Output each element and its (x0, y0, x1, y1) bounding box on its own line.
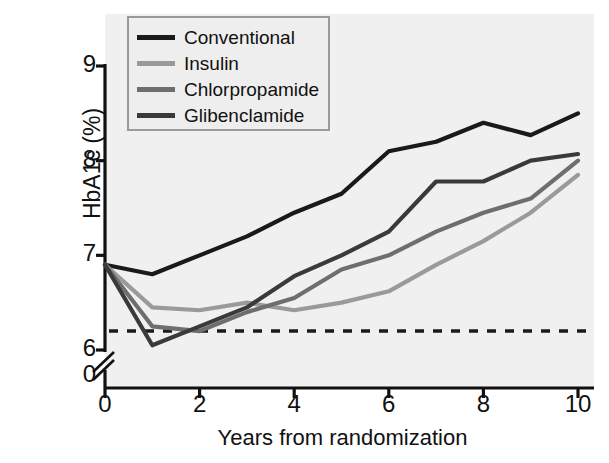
x-tick-label-10: 10 (558, 392, 598, 416)
legend-label: Insulin (184, 54, 239, 73)
legend-swatch-icon (137, 61, 175, 66)
y-tick-label-6: 6 (62, 336, 96, 360)
legend-item-conventional: Conventional (137, 24, 328, 50)
x-tick-label-8: 8 (463, 392, 503, 416)
y-axis-break-zero-label: 0 (62, 362, 96, 386)
x-tick-label-6: 6 (369, 392, 409, 416)
legend-swatch-icon (137, 87, 175, 92)
legend-item-glibenclamide: Glibenclamide (137, 102, 328, 128)
legend-item-chlorpropamide: Chlorpropamide (137, 76, 328, 102)
legend-swatch-icon (137, 113, 175, 118)
legend-swatch-icon (137, 35, 175, 40)
y-axis-title: HbA1c (%) (79, 64, 106, 264)
legend-label: Conventional (184, 28, 295, 47)
legend-item-insulin: Insulin (137, 50, 328, 76)
x-tick-label-2: 2 (180, 392, 220, 416)
chart-figure: 98760 HbA1c (%) Years from randomization… (0, 0, 609, 463)
x-tick-label-4: 4 (274, 392, 314, 416)
x-tick-label-0: 0 (85, 392, 125, 416)
legend-label: Glibenclamide (184, 106, 304, 125)
x-axis-title: Years from randomization (105, 425, 580, 451)
legend-label: Chlorpropamide (184, 80, 319, 99)
chart-legend: ConventionalInsulinChlorpropamideGlibenc… (127, 16, 330, 131)
